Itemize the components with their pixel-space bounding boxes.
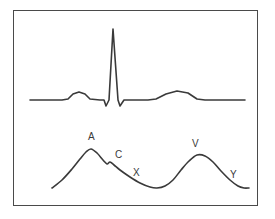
jvp-trace-path <box>52 149 249 188</box>
label-c-wave: C <box>115 150 122 160</box>
label-y-descent: Y <box>230 170 237 180</box>
label-v-wave: V <box>192 139 199 149</box>
label-x-descent: X <box>133 168 140 178</box>
waveform-plot <box>0 0 275 219</box>
label-a-wave: A <box>88 132 95 142</box>
ecg-trace-path <box>30 29 245 106</box>
figure-container: A C X V Y <box>0 0 275 219</box>
